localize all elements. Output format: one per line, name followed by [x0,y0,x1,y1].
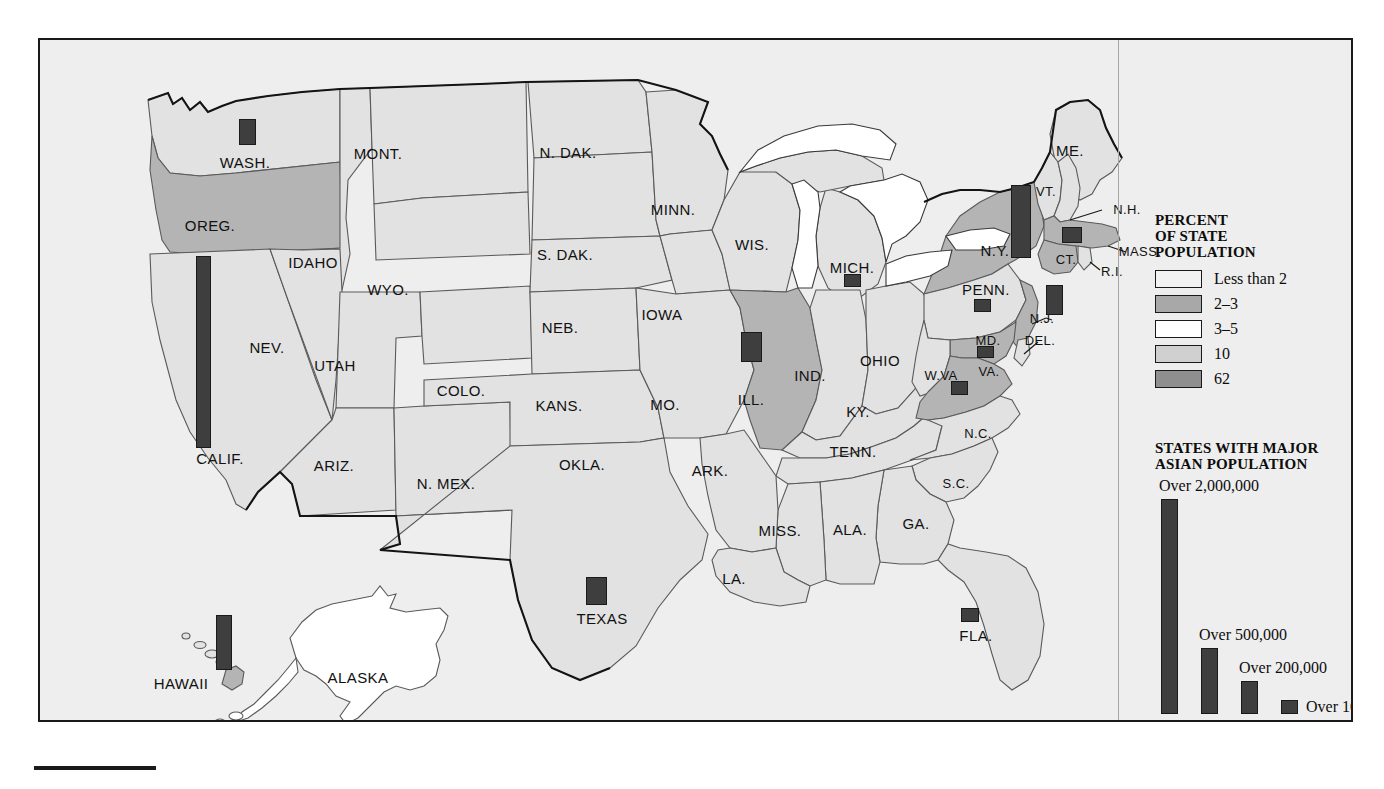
legend-percent-row: 2–3 [1155,295,1287,313]
population-bar-mass [1062,227,1082,243]
legend-percent-label: Less than 2 [1214,270,1287,288]
state-shape-alabama [820,470,884,584]
legend-swatch [1155,345,1202,363]
state-shape-florida [938,544,1044,690]
state-shape-kansas [530,288,640,374]
legend-bar-label-4: Over 100,000 [1306,698,1353,716]
legend-percent-title: PERCENT OF STATE POPULATION [1155,212,1287,260]
state-shape-alaska [290,586,448,720]
legend-percent: PERCENT OF STATE POPULATION Less than 22… [1155,212,1287,395]
legend-percent-row: 10 [1155,345,1287,363]
alaska-peninsula [236,658,298,720]
legend-bars-title-line1: STATES WITH MAJOR [1155,440,1353,456]
legend-percent-title-line2: OF STATE [1155,228,1287,244]
population-bar-hawaii [216,615,232,670]
population-bar-ill [741,332,762,362]
population-bar-md [977,346,994,358]
population-bar-calif [196,256,211,448]
population-bar-mich [844,274,861,287]
legend-bar-2 [1201,648,1218,714]
legend-bar-label-3: Over 200,000 [1239,659,1327,677]
legend-swatch [1155,370,1202,388]
legend-bars-title-line2: ASIAN POPULATION [1155,456,1353,472]
page-root: .st{stroke:#5a5a5a;stroke-width:1.1;} .h… [0,0,1384,789]
legend-percent-row: 3–5 [1155,320,1287,338]
population-bar-nj [1046,285,1063,315]
legend-asian-population: STATES WITH MAJOR ASIAN POPULATION Over … [1155,440,1353,710]
legend-percent-label: 62 [1214,370,1230,388]
population-bar-penn [974,299,991,312]
population-bar-ny [1011,185,1031,258]
state-shape-rhodeisland [1078,246,1092,270]
legend-bar-label-2: Over 500,000 [1199,626,1287,644]
legend-percent-row: 62 [1155,370,1287,388]
map-frame: .st{stroke:#5a5a5a;stroke-width:1.1;} .h… [38,38,1353,722]
legend-percent-title-line3: POPULATION [1155,244,1287,260]
state-shape-utah [336,292,422,408]
legend-swatch [1155,320,1202,338]
legend-percent-row: Less than 2 [1155,270,1287,288]
legend-percent-label: 10 [1214,345,1230,363]
legend-percent-label: 2–3 [1214,295,1238,313]
state-shape-montana [370,82,528,204]
legend-bars-title: STATES WITH MAJOR ASIAN POPULATION [1155,440,1353,472]
state-shape-minnesota [646,90,728,236]
population-bar-wash [239,119,256,145]
legend-bars-graphic: Over 2,000,000Over 500,000Over 200,000Ov… [1155,486,1353,716]
state-shape-northdakota [528,80,652,158]
state-shape-wyoming [374,192,530,260]
legend-swatch [1155,270,1202,288]
legend-swatch [1155,295,1202,313]
legend-divider [1118,40,1119,720]
population-bar-texas [586,577,607,605]
legend-bar-4 [1281,700,1298,714]
legend-bar-3 [1241,681,1258,714]
legend-percent-label: 3–5 [1214,320,1238,338]
hawaii-islands [182,633,244,690]
state-shape-connecticut [1038,240,1078,274]
bottom-rule [34,766,156,770]
legend-bar-label-1: Over 2,000,000 [1159,477,1259,495]
legend-percent-title-line1: PERCENT [1155,212,1287,228]
state-shape-nebraska [530,236,672,292]
legend-percent-rows: Less than 22–33–51062 [1155,270,1287,388]
state-shape-colorado [420,286,532,364]
state-shape-southdakota [532,152,660,240]
population-bar-va [951,381,968,395]
legend-bar-1 [1161,499,1178,714]
population-bar-fla [961,608,979,622]
